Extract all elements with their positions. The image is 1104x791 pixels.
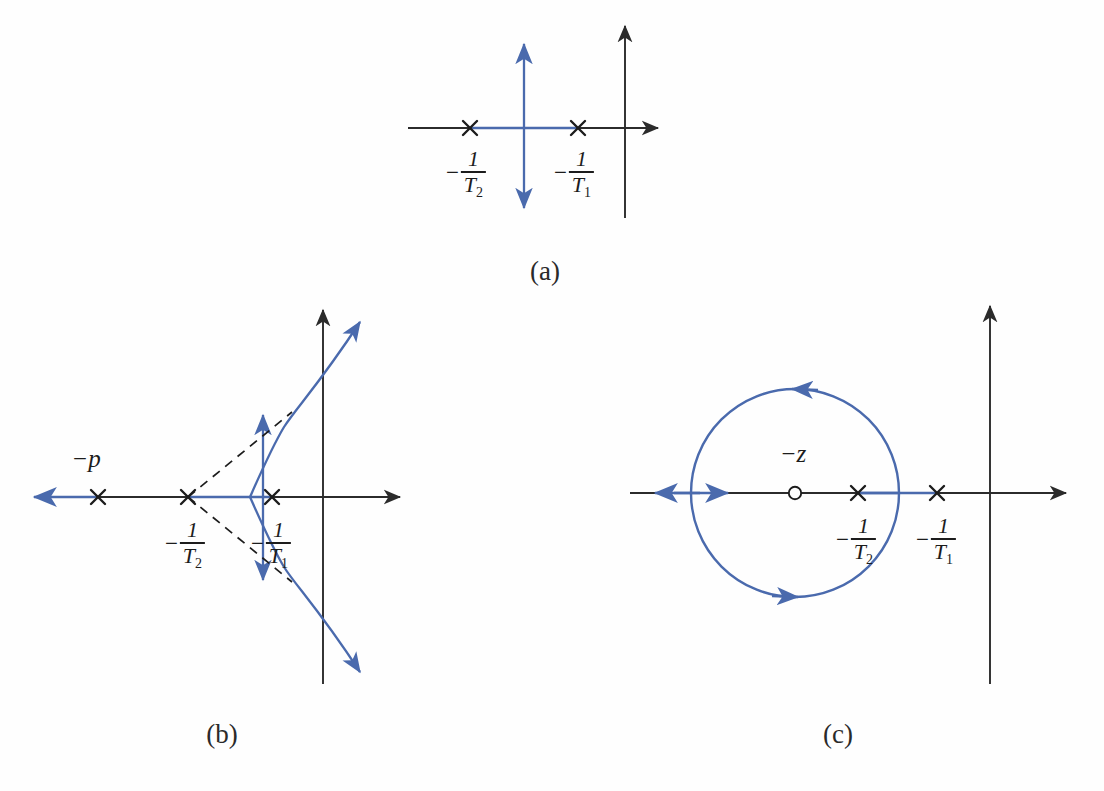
denominator: T2 bbox=[851, 540, 876, 567]
caption-b: (b) bbox=[206, 719, 237, 750]
fraction-minus-one-over-T2: − 1 T2 bbox=[446, 148, 486, 200]
root-locus-svg-canvas bbox=[0, 0, 1104, 791]
numerator: 1 bbox=[184, 519, 201, 542]
numerator: 1 bbox=[573, 148, 590, 171]
numerator: 1 bbox=[935, 515, 952, 538]
panel-b-locus-complex-upper bbox=[250, 322, 360, 497]
denominator-T: T bbox=[183, 543, 195, 568]
denominator-subscript: 1 bbox=[946, 552, 953, 567]
panel-c-zero-marker bbox=[789, 487, 801, 499]
denominator-subscript: 1 bbox=[281, 556, 288, 571]
panel-a-label-minus-one-over-T1: − 1 T1 bbox=[554, 148, 594, 200]
fraction-minus-one-over-T1: − 1 T1 bbox=[916, 515, 956, 567]
fraction-minus-one-over-T1: − 1 T1 bbox=[251, 519, 291, 571]
minus-sign: − bbox=[554, 161, 567, 184]
denominator: T2 bbox=[461, 173, 486, 200]
figure-root-locus-plots: − 1 T2 − 1 T1 −p − 1 T2 − 1 T1 −z bbox=[0, 0, 1104, 791]
minus-sign: − bbox=[446, 161, 459, 184]
denominator-T: T bbox=[464, 172, 476, 197]
panel-b-label-minus-one-over-T2: − 1 T2 bbox=[165, 519, 205, 571]
panel-c-group bbox=[630, 306, 1066, 684]
numerator: 1 bbox=[270, 519, 287, 542]
fraction-minus-one-over-T1: − 1 T1 bbox=[554, 148, 594, 200]
minus-sign: − bbox=[251, 532, 264, 555]
denominator: T2 bbox=[180, 544, 205, 571]
denominator-subscript: 2 bbox=[866, 552, 873, 567]
denominator-subscript: 2 bbox=[195, 556, 202, 571]
denominator: T1 bbox=[266, 544, 291, 571]
caption-a: (a) bbox=[530, 256, 560, 287]
fraction-stack: 1 T1 bbox=[931, 515, 956, 567]
fraction-minus-one-over-T2: − 1 T2 bbox=[836, 515, 876, 567]
fraction-stack: 1 T1 bbox=[266, 519, 291, 571]
fraction-stack: 1 T1 bbox=[569, 148, 594, 200]
denominator-subscript: 2 bbox=[476, 185, 483, 200]
panel-c-label-minus-one-over-T2: − 1 T2 bbox=[836, 515, 876, 567]
minus-sign: − bbox=[836, 528, 849, 551]
panel-c-circle-arrow-bottom bbox=[772, 596, 798, 597]
fraction-stack: 1 T2 bbox=[461, 148, 486, 200]
minus-sign: − bbox=[916, 528, 929, 551]
panel-b-group bbox=[34, 310, 400, 684]
minus-sign: − bbox=[165, 532, 178, 555]
denominator-T: T bbox=[572, 172, 584, 197]
numerator: 1 bbox=[855, 515, 872, 538]
fraction-minus-one-over-T2: − 1 T2 bbox=[165, 519, 205, 571]
fraction-stack: 1 T2 bbox=[851, 515, 876, 567]
caption-c: (c) bbox=[823, 719, 853, 750]
fraction-stack: 1 T2 bbox=[180, 519, 205, 571]
panel-c-circle-arrow-top bbox=[792, 389, 818, 390]
denominator: T1 bbox=[569, 173, 594, 200]
denominator-T: T bbox=[854, 539, 866, 564]
panel-b-asymptote-upper bbox=[188, 412, 292, 497]
panel-b-label-minus-one-over-T1: − 1 T1 bbox=[251, 519, 291, 571]
numerator: 1 bbox=[465, 148, 482, 171]
panel-c-label-minus-one-over-T1: − 1 T1 bbox=[916, 515, 956, 567]
panel-b-label-minus-p: −p bbox=[71, 445, 100, 473]
denominator-T: T bbox=[934, 539, 946, 564]
denominator-subscript: 1 bbox=[584, 185, 591, 200]
panel-c-label-minus-z: −z bbox=[780, 440, 807, 468]
denominator-T: T bbox=[269, 543, 281, 568]
panel-a-label-minus-one-over-T2: − 1 T2 bbox=[446, 148, 486, 200]
denominator: T1 bbox=[931, 540, 956, 567]
